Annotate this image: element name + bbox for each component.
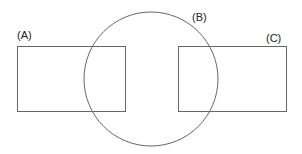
rectangle-c [179,47,287,112]
diagram-svg [0,0,302,154]
label-a: (A) [17,30,32,41]
circle-b [84,12,218,146]
diagram-canvas: (A) (B) (C) [0,0,302,154]
label-c: (C) [266,33,281,44]
rectangle-a [18,47,126,112]
label-b: (B) [192,12,207,23]
